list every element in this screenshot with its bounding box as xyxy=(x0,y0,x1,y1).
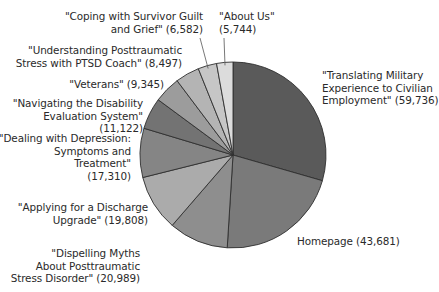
label-dealing-depression: "Dealing with Depression: Symptoms and T… xyxy=(0,132,131,182)
leader-line-9 xyxy=(224,38,225,65)
label-about-us: "About Us" (5,744) xyxy=(219,10,275,35)
leader-line-8 xyxy=(200,38,208,69)
label-coping-survivor-guilt: "Coping with Survivor Guilt and Grief" (… xyxy=(65,10,203,35)
label-veterans: "Veterans" (9,345) xyxy=(69,78,164,91)
label-homepage: Homepage (43,681) xyxy=(297,235,400,248)
label-applying-discharge: "Applying for a Discharge Upgrade" (19,8… xyxy=(18,201,148,226)
label-translating-military: "Translating Military Experience to Civi… xyxy=(322,69,438,107)
label-dispelling-myths: "Dispelling Myths About Posttraumatic St… xyxy=(11,247,140,285)
label-navigating-disability: "Navigating the Disability Evaluation Sy… xyxy=(13,97,143,135)
label-understanding-ptsd: "Understanding Posttraumatic Stress with… xyxy=(16,44,182,69)
